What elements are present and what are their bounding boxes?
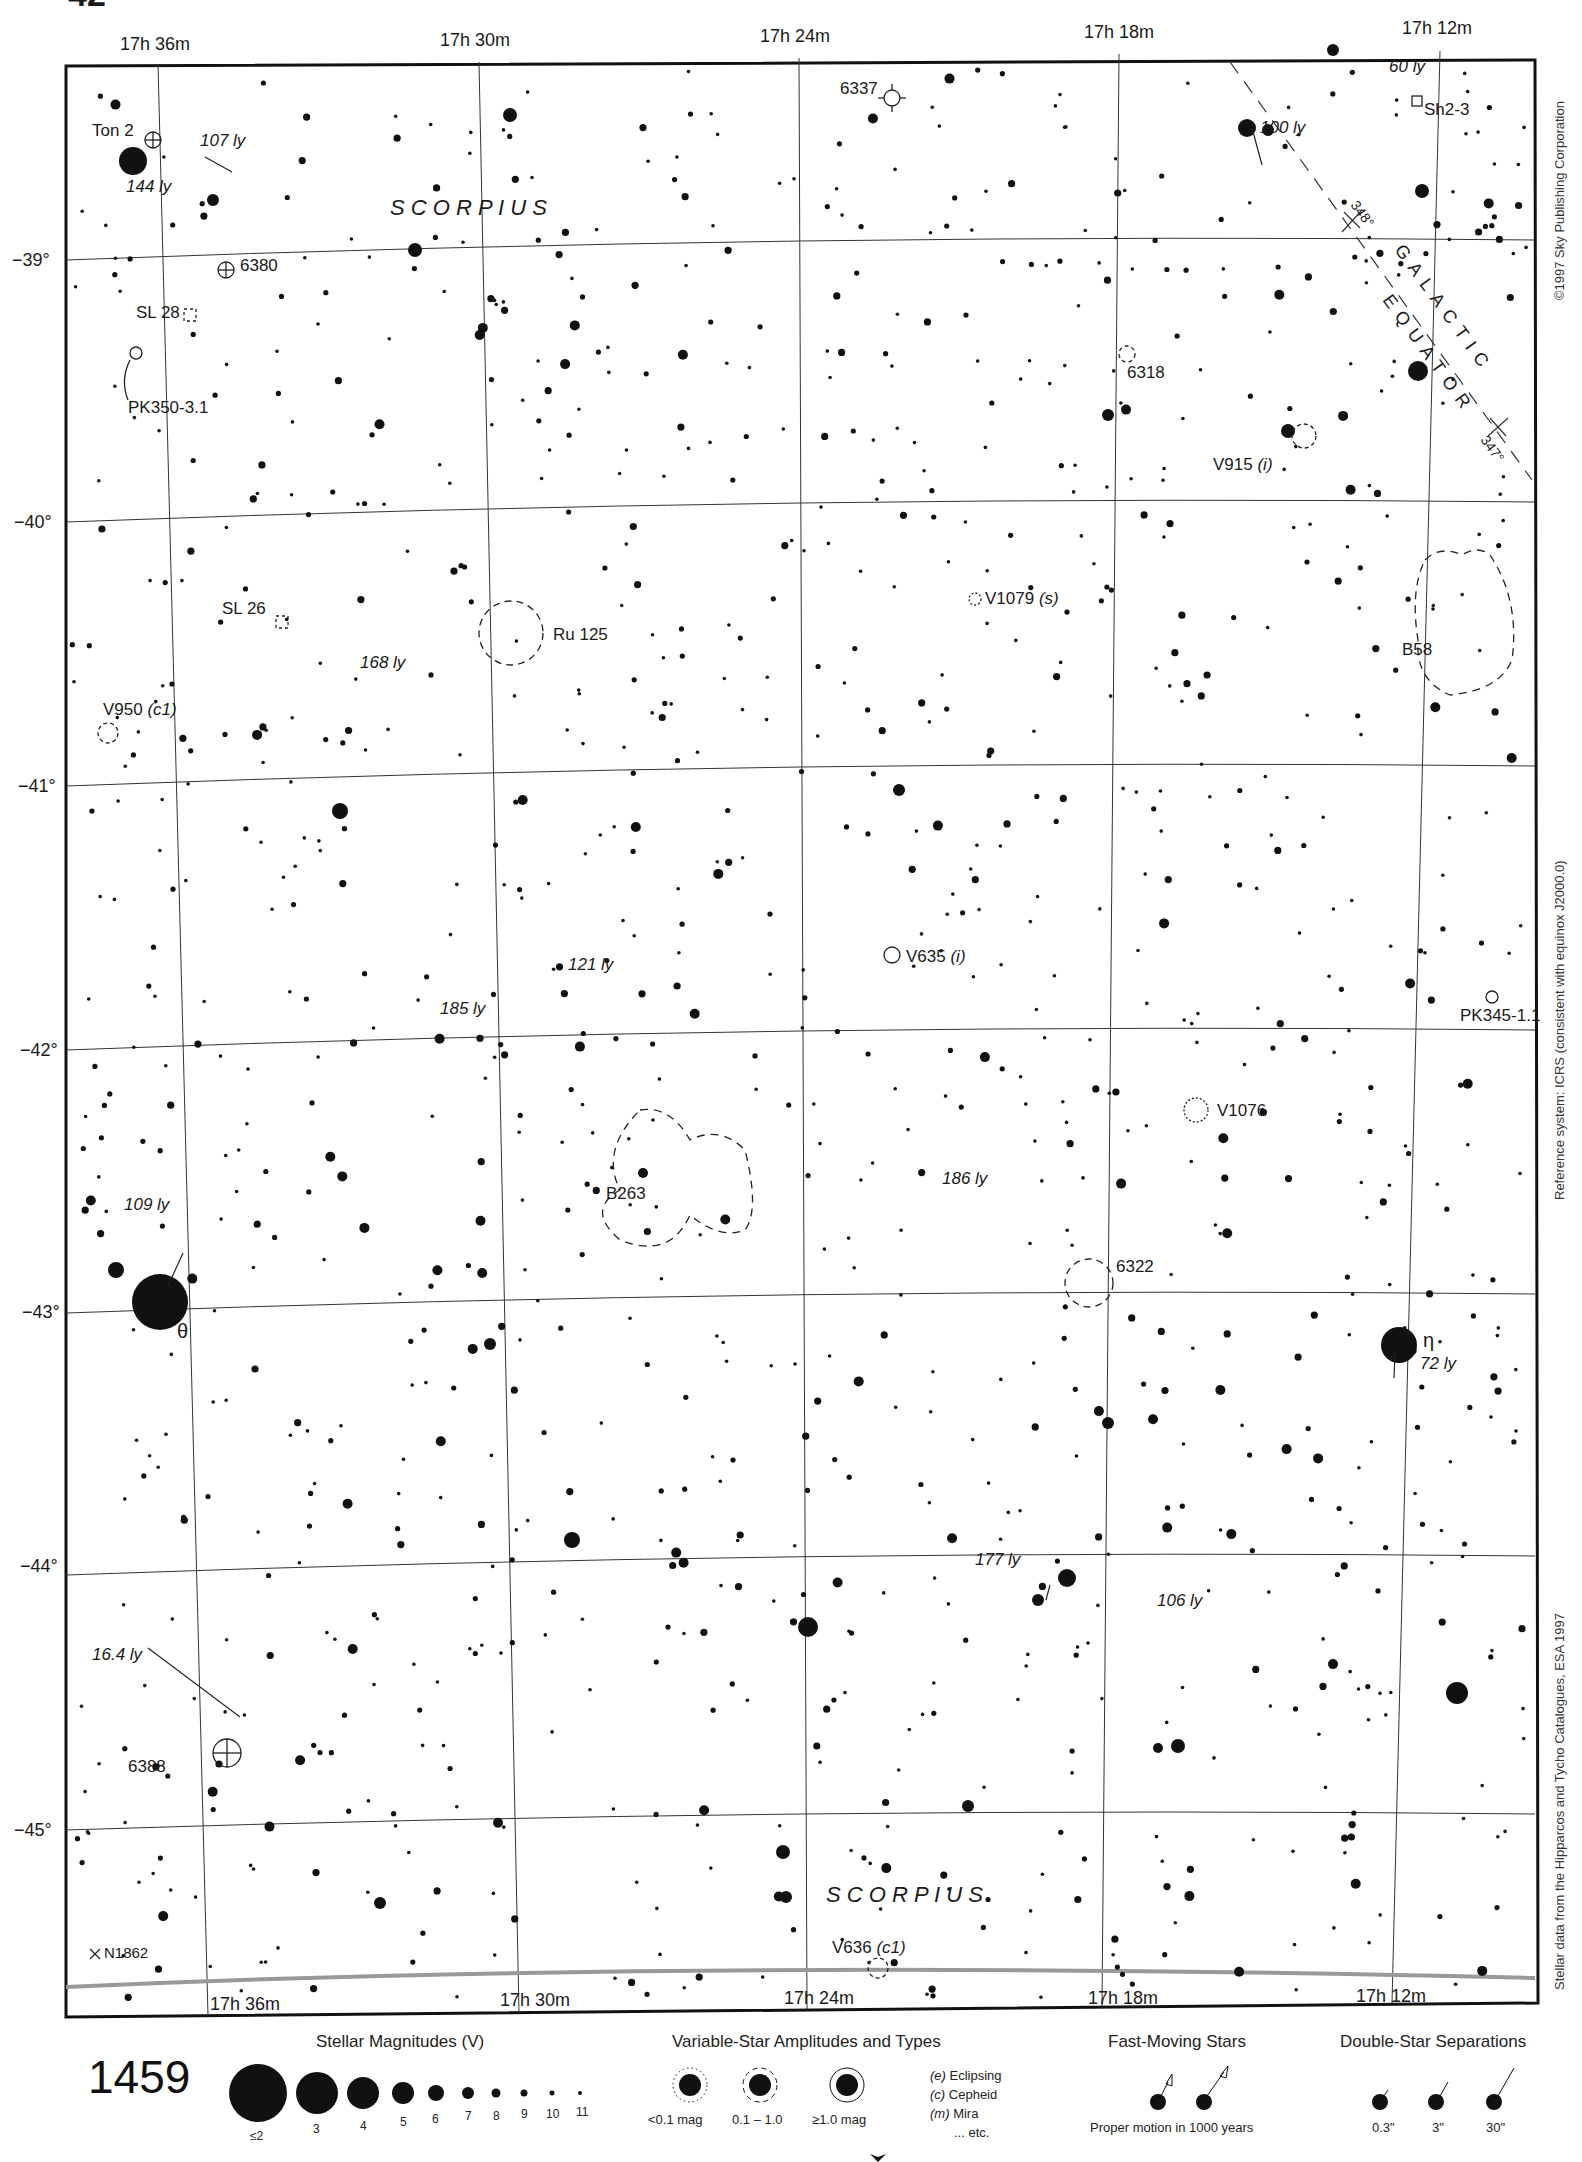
star xyxy=(1114,157,1118,161)
star xyxy=(193,1697,197,1701)
double-star-icons xyxy=(1360,2060,1540,2115)
star xyxy=(1388,1184,1392,1188)
star xyxy=(680,922,685,927)
star xyxy=(823,1706,830,1713)
star xyxy=(180,579,184,583)
star xyxy=(1375,1588,1380,1593)
star xyxy=(337,1171,347,1181)
star xyxy=(140,1139,145,1144)
star xyxy=(1521,1707,1525,1711)
star xyxy=(511,1387,518,1394)
star xyxy=(1332,907,1336,911)
label-ru125: Ru 125 xyxy=(553,625,608,644)
star xyxy=(335,377,342,384)
star xyxy=(1405,979,1415,989)
star xyxy=(450,568,457,575)
star xyxy=(158,849,162,853)
star xyxy=(89,809,94,814)
star xyxy=(1100,1697,1104,1701)
star xyxy=(1380,389,1384,393)
star xyxy=(708,441,712,445)
star xyxy=(1438,1340,1442,1344)
star xyxy=(802,995,807,1000)
star xyxy=(312,1869,319,1876)
star xyxy=(135,1438,139,1442)
star xyxy=(1433,221,1440,228)
star xyxy=(252,1266,256,1270)
star xyxy=(1116,1179,1126,1189)
mag-label: 9 xyxy=(521,2107,528,2121)
star xyxy=(780,1891,792,1903)
star xyxy=(1207,1589,1211,1593)
star xyxy=(526,1519,530,1523)
star xyxy=(1282,468,1286,472)
star xyxy=(1131,267,1135,271)
star xyxy=(675,155,679,159)
star xyxy=(536,359,540,363)
star xyxy=(1490,1277,1495,1282)
star xyxy=(1158,1328,1165,1335)
star xyxy=(635,1881,639,1885)
star xyxy=(218,620,223,625)
star xyxy=(1264,775,1268,779)
star xyxy=(1395,113,1399,117)
star xyxy=(662,701,667,706)
star xyxy=(1267,1590,1271,1594)
star xyxy=(1517,163,1521,167)
star xyxy=(75,1836,80,1841)
star xyxy=(1019,377,1023,381)
ra-top-label: 17h 18m xyxy=(1084,22,1154,42)
star xyxy=(433,184,440,191)
star xyxy=(638,1168,648,1178)
amp-label: <0.1 mag xyxy=(648,2112,703,2127)
star xyxy=(776,1845,790,1859)
star xyxy=(1136,949,1140,953)
star xyxy=(502,300,506,304)
label-107ly: 107 ly xyxy=(200,131,247,150)
star xyxy=(1389,945,1393,949)
star xyxy=(738,636,743,641)
star xyxy=(523,1268,527,1272)
star xyxy=(469,599,474,604)
star xyxy=(394,135,401,142)
star xyxy=(1365,281,1369,285)
star xyxy=(1008,180,1015,187)
star xyxy=(947,1533,957,1543)
star xyxy=(424,974,429,979)
star xyxy=(317,1750,322,1755)
map-labels: Ton 2 107 ly 144 ly S C O R P I U S 6380… xyxy=(92,57,1540,1961)
copyright-text: ©1997 Sky Publishing Corporation xyxy=(1552,101,1567,300)
star xyxy=(725,1360,729,1364)
star xyxy=(595,228,599,232)
star xyxy=(634,581,641,588)
star xyxy=(687,70,691,74)
star xyxy=(342,826,347,831)
star xyxy=(1292,526,1296,530)
star xyxy=(1171,1739,1185,1753)
star xyxy=(940,1872,947,1879)
star xyxy=(879,1907,883,1911)
star xyxy=(1109,694,1113,698)
star xyxy=(900,512,907,519)
star xyxy=(1359,733,1363,737)
galactic-tick-347: 347° xyxy=(1478,432,1508,465)
label-pk350: PK350-3.1 xyxy=(128,398,208,417)
star xyxy=(1102,1417,1114,1429)
star xyxy=(282,876,286,880)
star xyxy=(148,1454,152,1458)
star xyxy=(1507,294,1514,301)
star xyxy=(442,1744,446,1748)
star xyxy=(1121,405,1131,415)
star xyxy=(1347,1029,1351,1033)
star xyxy=(1243,1063,1247,1067)
star xyxy=(744,434,749,439)
star xyxy=(721,1341,725,1345)
star xyxy=(211,1807,216,1812)
star xyxy=(1406,597,1411,602)
star xyxy=(1295,1354,1302,1361)
star xyxy=(684,264,688,268)
star xyxy=(1393,668,1398,673)
star xyxy=(1368,1085,1373,1090)
star xyxy=(1503,1830,1507,1834)
star xyxy=(1064,125,1068,129)
